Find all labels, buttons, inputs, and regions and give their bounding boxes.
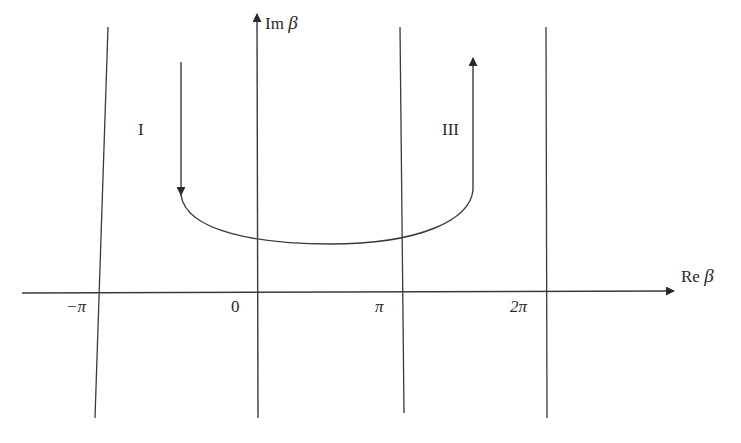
tick-2pi: 2π — [510, 297, 527, 317]
real-axis-label: Re β — [681, 265, 714, 287]
imaginary-axis-label: Im β — [265, 12, 298, 34]
real-axis-label-symbol: β — [704, 265, 713, 286]
line-2pi — [546, 27, 547, 418]
region-label-i: I — [138, 120, 144, 140]
imaginary-axis-label-prefix: Im — [265, 14, 284, 33]
imaginary-axis-label-symbol: β — [288, 12, 297, 33]
region-label-iii: III — [442, 120, 459, 140]
tick-minus-pi: −π — [66, 297, 86, 317]
line-minus-pi — [95, 27, 108, 418]
real-axis-label-prefix: Re — [681, 267, 700, 286]
tick-pi: π — [375, 297, 384, 317]
real-axis — [22, 291, 674, 293]
line-pi — [400, 27, 404, 413]
contour-bottom-curve — [181, 190, 473, 244]
contour-diagram — [0, 0, 741, 443]
imaginary-axis — [257, 14, 258, 418]
tick-zero: 0 — [231, 297, 240, 317]
